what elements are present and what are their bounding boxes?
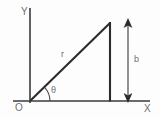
hypotenuse-label: r (61, 50, 64, 59)
angle-arc (45, 87, 50, 101)
trigonometry-figure: Y X O r b θ (0, 0, 160, 119)
angle-label: θ (51, 86, 56, 95)
x-axis-label: X (144, 104, 151, 114)
hypotenuse-line (31, 23, 111, 101)
origin-label: O (15, 103, 23, 113)
opposite-side-label: b (134, 55, 139, 64)
y-axis-label: Y (21, 7, 28, 17)
